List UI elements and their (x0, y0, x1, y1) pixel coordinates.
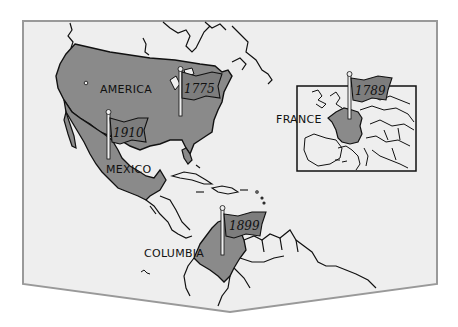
label-france: FRANCE (276, 113, 322, 126)
flag-year-1910: 1910 (113, 126, 144, 140)
revolutions-map: AMERICA MEXICO COLUMBIA FRANCE 1775 1910… (0, 0, 458, 327)
flag-year-1789: 1789 (355, 84, 386, 98)
lake-dot (84, 81, 88, 85)
flag-year-1775: 1775 (184, 82, 215, 96)
label-america: AMERICA (100, 83, 152, 96)
flag-year-1899: 1899 (229, 219, 260, 233)
label-columbia: COLUMBIA (144, 247, 204, 260)
label-mexico: MEXICO (106, 163, 151, 176)
